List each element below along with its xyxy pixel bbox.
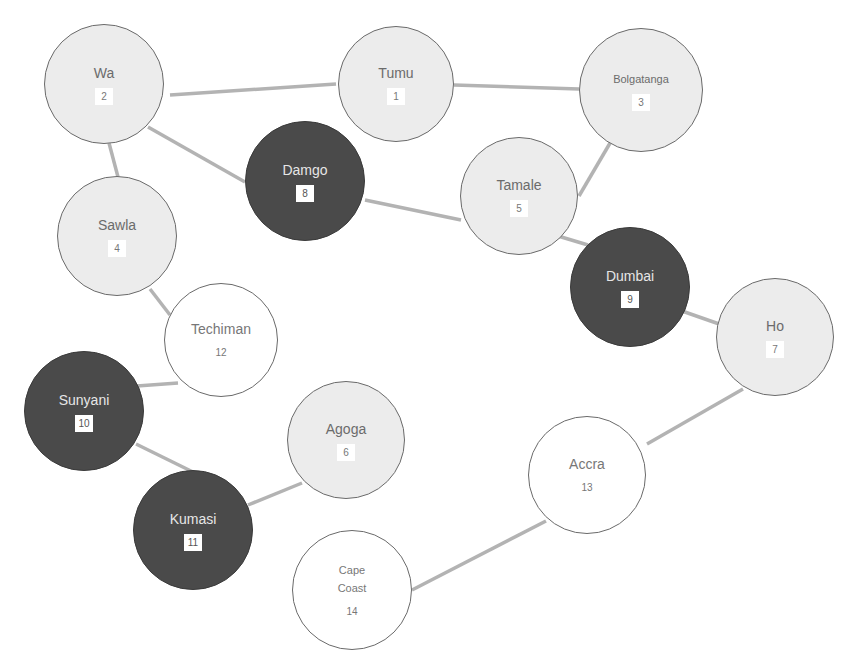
node-number-badge: 10 (75, 415, 93, 432)
edge-8-5 (365, 200, 461, 220)
edge-10-11 (136, 444, 193, 472)
node-label: Sunyani (59, 391, 110, 409)
edge-5-9 (558, 236, 588, 245)
node-label: Tumu (378, 64, 413, 82)
edge-9-7 (682, 311, 722, 325)
node-number-badge: 14 (343, 603, 361, 620)
node-label: Bolgatanga (613, 70, 669, 88)
node-sunyani[interactable]: Sunyani10 (24, 351, 144, 471)
edge-7-13 (647, 389, 743, 444)
node-number-badge: 6 (337, 444, 355, 461)
edge-2-4 (109, 143, 118, 177)
node-label: Ho (766, 317, 784, 335)
node-label: Dumbai (606, 267, 654, 285)
node-techiman[interactable]: Techiman12 (164, 283, 278, 397)
edge-3-5 (579, 138, 613, 196)
edge-6-11 (248, 483, 302, 505)
node-number-badge: 13 (578, 479, 596, 496)
node-cape-coast[interactable]: Cape Coast14 (292, 530, 412, 650)
node-dumbai[interactable]: Dumbai9 (570, 227, 690, 347)
node-number-badge: 4 (108, 240, 126, 257)
node-damgo[interactable]: Damgo8 (245, 121, 365, 241)
edge-2-1 (170, 84, 336, 95)
node-number-badge: 12 (212, 344, 230, 361)
edge-4-12 (150, 289, 170, 315)
node-number-badge: 11 (184, 534, 202, 551)
node-label: Accra (569, 455, 605, 473)
node-number-badge: 9 (621, 291, 639, 308)
node-number-badge: 1 (387, 88, 405, 105)
node-agoga[interactable]: Agoga6 (287, 381, 405, 499)
node-tamale[interactable]: Tamale5 (460, 137, 578, 255)
node-bolgatanga[interactable]: Bolgatanga3 (579, 28, 703, 152)
node-label: Wa (94, 64, 114, 82)
node-label: Tamale (496, 176, 541, 194)
edge-12-10 (137, 383, 178, 386)
node-number-badge: 7 (766, 341, 784, 358)
node-label: Cape Coast (338, 561, 367, 597)
node-ho[interactable]: Ho7 (716, 278, 834, 396)
node-tumu[interactable]: Tumu1 (338, 26, 454, 142)
node-accra[interactable]: Accra13 (528, 416, 646, 534)
edge-13-14 (412, 521, 546, 590)
node-label: Techiman (191, 320, 251, 338)
edge-2-8 (148, 127, 245, 182)
node-sawla[interactable]: Sawla4 (57, 176, 177, 296)
edge-1-3 (454, 85, 579, 89)
node-label: Kumasi (170, 510, 217, 528)
node-number-badge: 2 (95, 88, 113, 105)
node-label: Sawla (98, 216, 136, 234)
node-number-badge: 8 (296, 185, 314, 202)
node-wa[interactable]: Wa2 (44, 24, 164, 144)
node-kumasi[interactable]: Kumasi11 (133, 470, 253, 590)
node-label: Damgo (282, 161, 327, 179)
node-label: Agoga (326, 420, 366, 438)
node-number-badge: 3 (632, 94, 650, 111)
node-number-badge: 5 (510, 200, 528, 217)
